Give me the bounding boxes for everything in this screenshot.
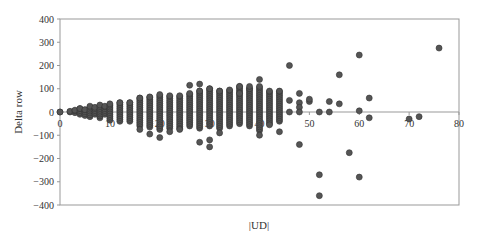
data-point xyxy=(167,129,173,135)
data-point xyxy=(257,132,263,138)
y-axis-ticks: 4003002001000−100−200−300−400 xyxy=(33,14,60,211)
data-point xyxy=(247,83,253,89)
data-point xyxy=(137,95,143,101)
y-tick-label: −200 xyxy=(33,153,54,164)
y-tick-label: 300 xyxy=(39,37,54,48)
data-point xyxy=(147,94,153,100)
data-point xyxy=(366,115,372,121)
data-point xyxy=(157,92,163,98)
y-tick-label: −100 xyxy=(33,130,54,141)
data-point xyxy=(257,76,263,82)
scatter-chart: 4003002001000−100−200−300−400 0102030405… xyxy=(0,0,480,240)
x-tick-label: 50 xyxy=(304,118,314,129)
data-point xyxy=(137,126,143,132)
data-point xyxy=(266,88,272,94)
x-axis-title: |UD| xyxy=(249,219,269,231)
data-point xyxy=(217,88,223,94)
data-point xyxy=(197,81,203,87)
data-point xyxy=(316,172,322,178)
data-point xyxy=(207,137,213,143)
data-point xyxy=(356,108,362,114)
data-point xyxy=(257,83,263,89)
data-point xyxy=(207,144,213,150)
data-point xyxy=(177,93,183,99)
data-point xyxy=(167,93,173,99)
data-point xyxy=(187,90,193,96)
data-point xyxy=(286,109,292,115)
data-point xyxy=(197,139,203,145)
data-point xyxy=(296,90,302,96)
data-point xyxy=(177,126,183,132)
y-tick-label: 100 xyxy=(39,83,54,94)
data-point xyxy=(336,101,342,107)
y-axis-title: Delta row xyxy=(12,90,24,134)
data-point xyxy=(57,109,63,115)
data-point xyxy=(127,100,133,106)
data-point xyxy=(157,135,163,141)
data-point xyxy=(416,114,422,120)
data-point xyxy=(286,97,292,103)
y-tick-label: 200 xyxy=(39,60,54,71)
y-tick-label: 0 xyxy=(49,107,54,118)
data-point xyxy=(217,130,223,136)
data-point xyxy=(336,72,342,78)
data-point xyxy=(187,82,193,88)
data-point xyxy=(107,101,113,107)
data-point xyxy=(316,193,322,199)
data-point xyxy=(237,83,243,89)
data-point xyxy=(207,86,213,92)
data-point xyxy=(436,45,442,51)
data-point xyxy=(296,109,302,115)
x-tick-label: 80 xyxy=(454,118,464,129)
data-point xyxy=(117,100,123,106)
data-point xyxy=(147,131,153,137)
data-point xyxy=(366,95,372,101)
data-point xyxy=(406,116,412,122)
data-point xyxy=(276,129,282,135)
data-point xyxy=(296,142,302,148)
y-tick-label: 400 xyxy=(39,14,54,25)
data-point xyxy=(197,88,203,94)
data-point xyxy=(316,109,322,115)
y-tick-label: −300 xyxy=(33,176,54,187)
data-point xyxy=(266,122,272,128)
x-tick-label: 0 xyxy=(58,118,63,129)
data-point xyxy=(237,90,243,96)
data-point xyxy=(326,99,332,105)
data-point xyxy=(286,63,292,69)
data-point xyxy=(326,109,332,115)
data-point xyxy=(276,88,282,94)
y-tick-label: −400 xyxy=(33,200,54,211)
data-point xyxy=(306,96,312,102)
data-point xyxy=(356,52,362,58)
data-point xyxy=(346,150,352,156)
x-tick-label: 60 xyxy=(354,118,364,129)
data-point xyxy=(356,174,362,180)
data-point xyxy=(227,87,233,93)
